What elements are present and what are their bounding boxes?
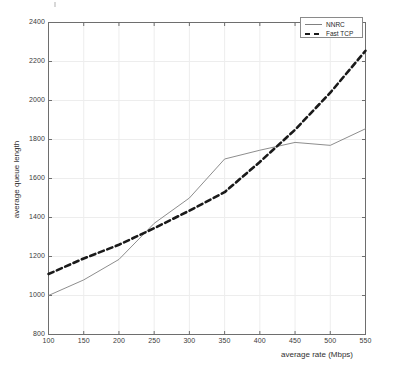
x-tick-label: 300 <box>178 337 200 344</box>
x-tick-label: 250 <box>143 337 165 344</box>
legend-swatch-dashed-icon <box>305 32 322 35</box>
x-tick-label: 200 <box>108 337 130 344</box>
series-line-fast-tcp <box>49 51 366 274</box>
y-tick-label: 1200 <box>20 252 45 259</box>
chart-legend: NNRC Fast TCP <box>300 17 363 38</box>
x-tick-label: 100 <box>38 337 60 344</box>
x-tick-label: 400 <box>249 337 271 344</box>
series-line-nnrc <box>49 129 366 296</box>
y-tick-label: 2400 <box>20 18 45 25</box>
figure-canvas: average queue length average rate (Mbps)… <box>0 0 397 374</box>
y-tick-label: 1600 <box>20 174 45 181</box>
y-tick-label: 800 <box>20 330 45 337</box>
y-tick-label: 1000 <box>20 291 45 298</box>
legend-label-fast-tcp: Fast TCP <box>326 29 353 38</box>
chart-plot-area <box>0 0 397 374</box>
y-tick-label: 1800 <box>20 135 45 142</box>
x-tick-label: 350 <box>214 337 236 344</box>
y-tick-label: 2000 <box>20 96 45 103</box>
y-tick-label: 2200 <box>20 57 45 64</box>
x-tick-label: 150 <box>73 337 95 344</box>
y-tick-label: 1400 <box>20 213 45 220</box>
x-tick-label: 450 <box>284 337 306 344</box>
legend-swatch-solid-icon <box>305 24 322 25</box>
legend-entry-fast-tcp: Fast TCP <box>301 28 362 38</box>
x-axis-title: average rate (Mbps) <box>281 350 353 359</box>
x-tick-label: 550 <box>355 337 377 344</box>
x-tick-label: 500 <box>319 337 341 344</box>
